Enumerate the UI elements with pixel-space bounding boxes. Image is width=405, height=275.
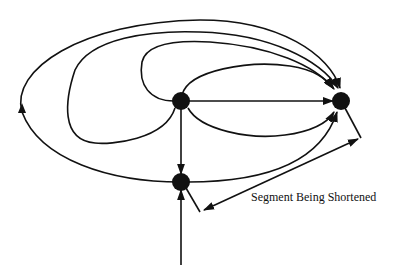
edge-lower: [188, 108, 334, 136]
edge-wide-loop: [68, 32, 338, 144]
node-c: [172, 173, 190, 191]
node-a: [172, 92, 190, 110]
graph-diagram: [0, 0, 405, 275]
segment-label: Segment Being Shortened: [251, 190, 376, 205]
edge-upper-loop: [141, 42, 334, 101]
edge-c-to-b: [188, 112, 337, 182]
node-b: [332, 92, 350, 110]
segment-tick-b: [345, 108, 361, 138]
outer-loop-arrowhead: [18, 103, 26, 113]
segment-tick-c: [186, 188, 200, 212]
